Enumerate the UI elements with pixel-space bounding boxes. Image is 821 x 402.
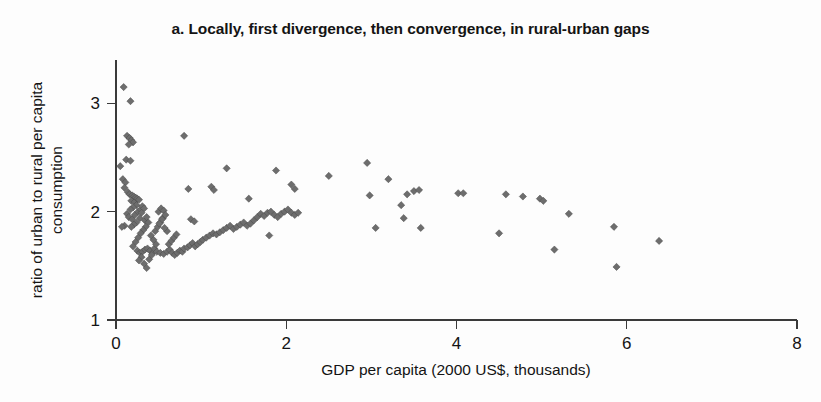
data-point	[325, 172, 332, 179]
y-tick-label: 3	[91, 94, 100, 113]
data-point	[655, 237, 662, 244]
data-point	[415, 186, 422, 193]
data-point	[117, 163, 124, 170]
data-point	[181, 132, 188, 139]
data-point	[364, 159, 371, 166]
data-point	[127, 98, 134, 105]
data-point	[266, 232, 273, 239]
x-axis-title: GDP per capita (2000 US$, thousands)	[321, 361, 590, 378]
data-point	[385, 176, 392, 183]
data-point	[551, 246, 558, 253]
data-point	[120, 83, 127, 90]
data-point	[417, 224, 424, 231]
x-axis-ticks: 02468	[111, 320, 801, 353]
data-points-layer	[117, 83, 663, 271]
data-point	[610, 223, 617, 230]
data-point	[502, 191, 509, 198]
data-point	[404, 191, 411, 198]
x-tick-label: 8	[792, 334, 801, 353]
data-point	[366, 192, 373, 199]
x-tick-label: 4	[452, 334, 461, 353]
data-point	[372, 224, 379, 231]
data-point	[519, 193, 526, 200]
data-point	[245, 195, 252, 202]
data-point	[185, 185, 192, 192]
data-point	[272, 167, 279, 174]
data-point	[460, 190, 467, 197]
data-point	[565, 210, 572, 217]
y-axis-ticks: 123	[91, 94, 116, 330]
y-tick-label: 2	[91, 203, 100, 222]
y-axis-title-line1: ratio of urban to rural per capita	[28, 81, 45, 298]
data-point	[223, 165, 230, 172]
x-tick-label: 2	[282, 334, 291, 353]
x-tick-label: 6	[622, 334, 631, 353]
scatter-plot: 123 02468 GDP per capita (2000 US$, thou…	[0, 0, 821, 402]
data-point	[400, 215, 407, 222]
y-tick-label: 1	[91, 311, 100, 330]
figure-container: a. Locally, first divergence, then conve…	[0, 0, 821, 402]
data-point	[495, 230, 502, 237]
y-axis-title-line2: consumption	[48, 146, 65, 234]
data-point	[613, 263, 620, 270]
data-point	[398, 202, 405, 209]
x-tick-label: 0	[111, 334, 120, 353]
